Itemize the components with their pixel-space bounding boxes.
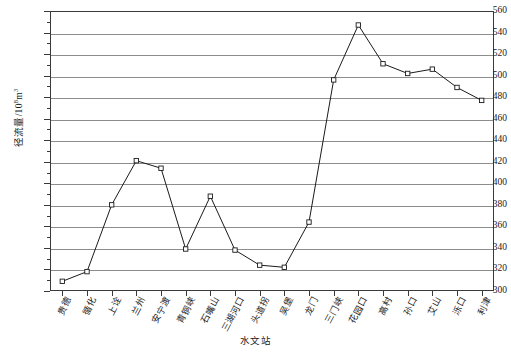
- series-layer: [50, 11, 494, 291]
- y-axis-tick-label: 440: [467, 135, 511, 145]
- y-axis-tick: [44, 11, 50, 12]
- y-axis-tick: [44, 119, 50, 120]
- x-axis-tick-label: 兰州: [131, 296, 148, 316]
- x-axis-tick-label: 头道拐: [250, 296, 271, 325]
- data-point-marker: [233, 248, 237, 252]
- y-axis-tick: [44, 54, 50, 55]
- x-axis-tick-label: 高村: [377, 296, 394, 316]
- x-axis-tick-label: 孙口: [402, 296, 419, 316]
- y-axis-tick: [44, 140, 50, 141]
- y-axis-minor-tick: [47, 194, 50, 195]
- y-axis-tick-label: 420: [467, 157, 511, 167]
- y-axis-tick: [44, 248, 50, 249]
- x-axis-tick-label: 青铜峡: [176, 296, 197, 325]
- y-axis-tick: [44, 269, 50, 270]
- x-axis-title: 水文站: [0, 333, 511, 347]
- y-axis-tick-label: 500: [467, 71, 511, 81]
- chart-figure: 径流量/108m3 水文站 30032034036038040042044046…: [0, 0, 511, 361]
- data-point-marker: [183, 247, 187, 251]
- x-axis-tick-label: 上诠: [106, 296, 123, 316]
- x-axis-tick-label: 石嘴山: [200, 296, 221, 325]
- y-axis-tick-label: 300: [467, 286, 511, 296]
- y-axis-title: 径流量/108m3: [13, 73, 25, 163]
- x-axis-tick: [112, 291, 113, 296]
- data-point-marker: [381, 62, 385, 66]
- y-axis-tick-label: 460: [467, 114, 511, 124]
- y-axis-minor-tick: [47, 22, 50, 23]
- x-axis-tick: [186, 291, 187, 296]
- series-line: [62, 25, 481, 281]
- y-axis-tick: [44, 33, 50, 34]
- data-point-marker: [208, 194, 212, 198]
- x-axis-tick-label: 吴堡: [279, 296, 296, 316]
- y-axis-tick-label: 520: [467, 49, 511, 59]
- y-axis-minor-tick: [47, 43, 50, 44]
- y-axis-tick-label: 560: [467, 6, 511, 16]
- y-axis-minor-tick: [47, 86, 50, 87]
- y-axis-title-exponent: 8: [12, 100, 19, 104]
- y-axis-minor-tick: [47, 216, 50, 217]
- x-axis-tick: [482, 291, 483, 296]
- x-axis-tick-label: 三门峡: [324, 296, 345, 325]
- y-axis-tick: [44, 291, 50, 292]
- y-axis-minor-tick: [47, 237, 50, 238]
- x-axis-tick: [334, 291, 335, 296]
- data-point-marker: [109, 203, 113, 207]
- y-axis-minor-tick: [47, 280, 50, 281]
- y-axis-tick: [44, 205, 50, 206]
- data-point-marker: [159, 166, 163, 170]
- y-axis-tick-label: 320: [467, 265, 511, 275]
- y-axis-tick-label: 380: [467, 200, 511, 210]
- data-point-marker: [405, 71, 409, 75]
- x-axis-tick: [260, 291, 261, 296]
- x-axis-tick-label: 泺口: [451, 296, 468, 316]
- y-axis-tick-label: 480: [467, 92, 511, 102]
- y-axis-minor-tick: [47, 129, 50, 130]
- y-axis-tick-label: 400: [467, 179, 511, 189]
- data-point-marker: [134, 158, 138, 162]
- data-point-marker: [356, 23, 360, 27]
- y-axis-tick: [44, 162, 50, 163]
- data-point-marker: [282, 265, 286, 269]
- y-axis-title-unit: m: [14, 92, 24, 100]
- data-point-marker: [85, 269, 89, 273]
- x-axis-tick-label: 贵德: [57, 296, 74, 316]
- x-axis-tick-label: 花园口: [348, 296, 369, 325]
- y-axis-minor-tick: [47, 65, 50, 66]
- data-point-marker: [430, 67, 434, 71]
- y-axis-tick-label: 540: [467, 28, 511, 38]
- y-axis-tick: [44, 76, 50, 77]
- x-axis-tick-label: 循化: [81, 296, 98, 316]
- y-axis-minor-tick: [47, 173, 50, 174]
- y-axis-minor-tick: [47, 108, 50, 109]
- y-axis-title-exponent2: 3: [12, 88, 19, 92]
- y-axis-tick-label: 340: [467, 243, 511, 253]
- x-axis-tick-label: 利津: [476, 296, 493, 316]
- data-point-marker: [307, 220, 311, 224]
- data-point-marker: [331, 78, 335, 82]
- data-point-marker: [257, 263, 261, 267]
- x-axis-tick-label: 三湖河口: [221, 296, 246, 333]
- y-axis-minor-tick: [47, 259, 50, 260]
- y-axis-tick: [44, 183, 50, 184]
- y-axis-minor-tick: [47, 151, 50, 152]
- y-axis-tick-label: 360: [467, 222, 511, 232]
- x-axis-tick-label: 艾山: [427, 296, 444, 316]
- y-axis-tick: [44, 97, 50, 98]
- x-axis-tick: [408, 291, 409, 296]
- y-axis-title-text: 径流量/10: [14, 103, 24, 147]
- y-axis-tick: [44, 226, 50, 227]
- data-point-marker: [60, 279, 64, 283]
- data-point-marker: [455, 85, 459, 89]
- x-axis-tick-label: 安宁渡: [151, 296, 172, 325]
- x-axis-tick-label: 龙门: [303, 296, 320, 316]
